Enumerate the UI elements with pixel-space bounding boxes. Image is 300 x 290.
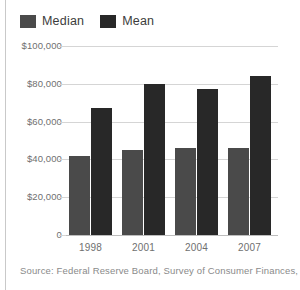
bar-group bbox=[122, 46, 165, 235]
legend-swatch-mean bbox=[100, 15, 116, 28]
y-axis-tick-label: $80,000 bbox=[0, 79, 62, 89]
bar-group bbox=[69, 46, 112, 235]
y-axis-tick bbox=[59, 84, 66, 85]
bar-mean-2001[interactable] bbox=[144, 84, 165, 235]
bar-mean-2004[interactable] bbox=[197, 89, 218, 235]
plot-area bbox=[66, 46, 278, 235]
y-axis-labels: $100,000$80,000$60,000$40,000$20,0000 bbox=[0, 46, 62, 235]
y-axis-tick-label: $20,000 bbox=[0, 192, 62, 202]
x-axis-tick-label: 2007 bbox=[220, 243, 280, 253]
x-axis-tick-label: 1998 bbox=[61, 243, 121, 253]
y-axis-tick bbox=[59, 235, 66, 236]
chart-legend: Median Mean bbox=[20, 13, 154, 29]
bar-median-2001[interactable] bbox=[122, 150, 143, 235]
bar-group bbox=[228, 46, 271, 235]
legend-item-median: Median bbox=[20, 15, 84, 28]
y-axis-tick bbox=[59, 159, 66, 160]
y-axis-tick bbox=[59, 122, 66, 123]
x-axis-tick-label: 2001 bbox=[114, 243, 174, 253]
y-axis-tick-label: $100,000 bbox=[0, 41, 62, 51]
chart-figure: Median Mean $100,000$80,000$60,000$40,00… bbox=[0, 0, 300, 290]
y-axis-tick-label: $60,000 bbox=[0, 117, 62, 127]
legend-swatch-median bbox=[20, 15, 36, 28]
bar-median-2004[interactable] bbox=[175, 148, 196, 235]
bar-median-2007[interactable] bbox=[228, 148, 249, 235]
legend-item-mean: Mean bbox=[100, 15, 154, 28]
bar-group bbox=[175, 46, 218, 235]
bar-mean-2007[interactable] bbox=[250, 76, 271, 235]
gridline bbox=[66, 235, 278, 236]
y-axis-tick-label: $40,000 bbox=[0, 155, 62, 165]
bar-median-1998[interactable] bbox=[69, 156, 90, 235]
x-axis-tick-label: 2004 bbox=[167, 243, 227, 253]
bar-mean-1998[interactable] bbox=[91, 108, 112, 235]
legend-label-mean: Mean bbox=[122, 15, 154, 28]
y-axis-tick bbox=[59, 46, 66, 47]
y-axis-tick bbox=[59, 197, 66, 198]
legend-label-median: Median bbox=[42, 15, 84, 28]
source-note: Source: Federal Reserve Board, Survey of… bbox=[20, 265, 300, 276]
y-axis-tick-label: 0 bbox=[0, 230, 62, 240]
